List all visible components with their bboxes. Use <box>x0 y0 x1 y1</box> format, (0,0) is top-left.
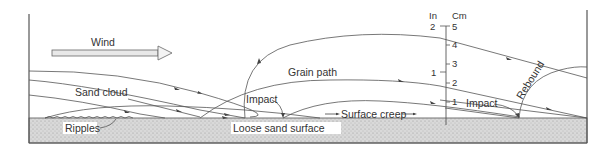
impact-right-pointer <box>494 104 518 116</box>
arrowhead <box>398 79 404 82</box>
scale-inch-header: In <box>429 10 437 21</box>
arrowhead <box>176 109 182 112</box>
trajectory-right-2 <box>445 108 519 118</box>
scale-cm-1: 1 <box>452 96 457 107</box>
height-scale <box>440 26 450 125</box>
scale-inch-2: 2 <box>430 21 435 32</box>
rebound-label: Rebound <box>514 58 547 101</box>
grain-path-label: Grain path <box>288 66 337 78</box>
wind-label: Wind <box>91 36 115 48</box>
sand-saltation-diagram: Wind Grain path In Cm 2 1 <box>0 0 613 151</box>
loose-sand-surface-label: Loose sand surface <box>233 122 325 134</box>
trajectory-1 <box>29 71 258 117</box>
scale-cm-header: Cm <box>452 10 467 21</box>
impact-left-label: Impact <box>246 93 278 105</box>
impact-right-label: Impact <box>466 97 498 109</box>
scale-cm-2: 2 <box>452 77 457 88</box>
sand-cloud-label: Sand cloud <box>75 86 128 98</box>
trajectory-low <box>45 106 320 118</box>
scale-cm-4: 4 <box>452 39 457 50</box>
surface-creep-label: Surface creep <box>341 108 407 120</box>
arrowhead <box>430 101 436 104</box>
arrowhead <box>546 107 552 110</box>
scale-inch-1: 1 <box>431 67 436 78</box>
wind-arrow <box>52 46 172 60</box>
scale-cm-3: 3 <box>452 58 457 69</box>
scale-cm-5: 5 <box>452 21 457 32</box>
ripples-label: Ripples <box>65 122 100 134</box>
